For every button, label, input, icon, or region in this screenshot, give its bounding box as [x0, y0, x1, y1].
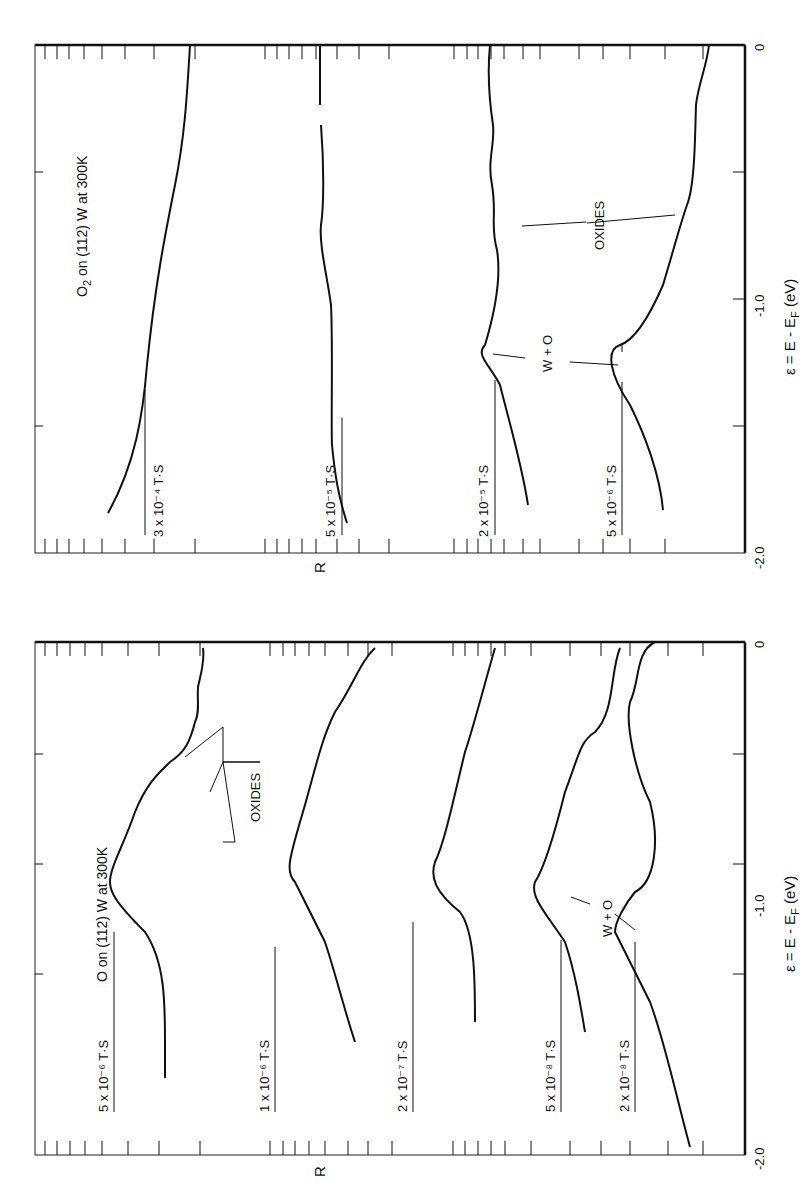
top-curve-5e-6 [611, 45, 709, 510]
bottom-label-5e-6: 5 x 10⁻⁶ T·S [96, 1040, 111, 1112]
top-label-2e-5: 2 x 10⁻⁵ T·S [476, 465, 491, 537]
top-label-3e-4: 3 x 10⁻⁴ T·S [151, 464, 166, 537]
bottom-label-2e-8: 2 x 10⁻⁸ T·S [617, 1039, 632, 1112]
bottom-curve-2e-7 [433, 648, 495, 1022]
bottom-chart-panel: O on (112) W at 300K 5 x 10⁻⁶ T·S 1 x 10… [35, 642, 747, 1157]
top-chart-panel: O2 on (112) W at 300K 3 x 10⁻⁴ T·S 5 x 1… [35, 45, 747, 555]
bottom-tick-0: 0 [752, 641, 767, 648]
bottom-annot-wo: W + O [600, 900, 615, 937]
bottom-curve-1e-6 [290, 648, 375, 1042]
top-curve-5e-5 [320, 45, 347, 523]
bottom-label-5e-8: 5 x 10⁻⁸ T·S [543, 1039, 558, 1112]
top-xlabel: ε = E - EF (eV) [781, 279, 801, 375]
bottom-chart-svg: O on (112) W at 300K 5 x 10⁻⁶ T·S 1 x 10… [35, 642, 747, 1157]
top-tick-0: 0 [752, 44, 767, 51]
bottom-label-2e-7: 2 x 10⁻⁷ T·S [395, 1040, 410, 1112]
bottom-curve-5e-8 [534, 648, 620, 1032]
bottom-annot-oxides: OXIDES [248, 773, 263, 822]
bottom-label-1e-6: 1 x 10⁻⁶ T·S [257, 1040, 272, 1112]
top-label-5e-5: 5 x 10⁻⁵ T·S [323, 465, 338, 537]
top-tick-2: -2.0 [752, 547, 767, 569]
bottom-tick-1: -1.0 [752, 895, 767, 917]
top-label-5e-6: 5 x 10⁻⁶ T·S [604, 465, 619, 537]
top-annot-wo: W + O [540, 335, 555, 372]
top-tick-1: -1.0 [752, 295, 767, 317]
bottom-xlabel: ε = E - EF (eV) [781, 876, 801, 972]
top-curve-3e-4 [108, 45, 190, 513]
top-ylabel: R [311, 562, 328, 573]
bottom-curve-5e-6 [110, 648, 203, 1078]
top-title: O2 on (112) W at 300K [74, 155, 93, 297]
bottom-ylabel: R [311, 1166, 328, 1177]
top-curve-2e-5 [482, 45, 528, 505]
bottom-tick-2: -2.0 [752, 1148, 767, 1170]
top-chart-svg: O2 on (112) W at 300K 3 x 10⁻⁴ T·S 5 x 1… [35, 45, 747, 555]
bottom-title: O on (112) W at 300K [94, 846, 110, 982]
top-annot-oxides: OXIDES [592, 201, 607, 250]
